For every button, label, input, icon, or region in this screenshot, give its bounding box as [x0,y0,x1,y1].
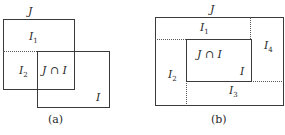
label-i: I [96,92,100,103]
label-intersection: J ∩ I [197,49,222,60]
dotted-divider [3,51,37,52]
label-i2: I2 [19,65,28,79]
dotted-divider-right [251,81,284,82]
dotted-divider-top [250,17,251,39]
label-j: J [28,6,32,17]
label-intersection: J ∩ I [42,65,67,76]
label-i4: I4 [264,40,273,54]
dotted-divider-bottom [186,81,187,106]
label-i1: I1 [29,31,38,45]
dotted-divider-left [155,39,186,40]
caption-a: (a) [48,114,63,125]
label-i2: I2 [168,69,177,83]
label-i: I [240,66,244,77]
label-i1: I1 [200,22,209,36]
label-i3: I3 [229,85,238,99]
label-j: J [210,4,214,15]
caption-b: (b) [211,114,227,125]
